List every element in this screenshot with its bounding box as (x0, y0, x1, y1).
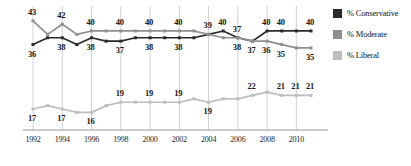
data-point-marker (134, 36, 137, 39)
data-value-label: 21 (277, 82, 285, 91)
legend-label: % Moderate (347, 30, 387, 39)
x-tick-label: 1996 (84, 136, 99, 144)
data-point-marker (192, 97, 195, 100)
data-value-label: 19 (204, 107, 212, 116)
data-point-marker (32, 43, 35, 46)
data-point-marker (266, 29, 269, 32)
data-value-label: 22 (247, 82, 255, 91)
data-value-label: 19 (116, 89, 124, 98)
data-point-marker (207, 101, 210, 104)
x-tick-label: 2006 (230, 136, 245, 144)
x-tick-label: 2010 (289, 136, 304, 144)
data-value-label: 40 (306, 18, 314, 27)
data-point-marker (149, 36, 152, 39)
data-value-label: 38 (145, 43, 153, 52)
data-point-marker (105, 40, 108, 43)
legend-swatch-icon (333, 51, 342, 60)
data-point-marker (32, 19, 35, 22)
data-point-marker (280, 94, 283, 97)
data-point-marker (119, 101, 122, 104)
x-tick-label: 2004 (201, 136, 216, 144)
data-value-label: 38 (174, 43, 182, 52)
data-value-label: 43 (28, 8, 36, 17)
data-point-marker (178, 101, 181, 104)
data-point-marker (134, 29, 137, 32)
data-point-marker (236, 36, 239, 39)
data-point-marker (134, 101, 137, 104)
data-point-marker (178, 36, 181, 39)
data-point-marker (61, 36, 64, 39)
data-point-marker (61, 23, 64, 26)
x-tick-label: 1998 (113, 136, 128, 144)
x-tick-label: 2000 (142, 136, 157, 144)
data-value-label: 40 (145, 18, 153, 27)
data-value-label: 39 (204, 21, 212, 30)
data-point-marker (75, 111, 78, 114)
data-point-marker (251, 40, 254, 43)
data-value-label: 35 (306, 53, 314, 62)
data-value-label: 40 (174, 18, 182, 27)
x-tick-label: 2002 (172, 136, 187, 144)
data-value-label: 38 (87, 43, 95, 52)
x-tick-label: 2008 (259, 136, 274, 144)
legend-item[interactable]: % Conservative (333, 8, 411, 18)
data-point-marker (222, 97, 225, 100)
data-value-label: 17 (57, 114, 65, 123)
plot-area: 3638383738383940384040404342404040403737… (0, 0, 330, 166)
data-point-marker (90, 29, 93, 32)
data-point-marker (163, 36, 166, 39)
data-value-label: 16 (87, 117, 95, 126)
data-point-marker (295, 29, 298, 32)
legend-swatch-icon (333, 30, 342, 39)
data-value-label: 21 (291, 82, 299, 91)
data-value-label: 40 (116, 18, 124, 27)
data-point-marker (207, 33, 210, 36)
legend-item[interactable]: % Moderate (333, 29, 411, 39)
data-value-label: 38 (233, 43, 241, 52)
data-point-marker (178, 29, 181, 32)
data-point-marker (46, 33, 49, 36)
data-point-marker (236, 97, 239, 100)
data-value-label: 36 (262, 46, 270, 55)
data-value-label: 37 (116, 46, 124, 55)
data-point-marker (266, 91, 269, 94)
legend-label: % Conservative (347, 9, 398, 18)
data-point-marker (119, 29, 122, 32)
data-point-marker (251, 94, 254, 97)
data-value-label: 42 (57, 11, 65, 20)
data-value-label: 37 (233, 25, 241, 34)
legend-item[interactable]: % Liberal (333, 50, 411, 60)
x-tick-label: 1992 (25, 136, 40, 144)
data-point-marker (105, 29, 108, 32)
ideology-trend-chart: 3638383738383940384040404342404040403737… (0, 0, 411, 166)
data-value-label: 17 (28, 114, 36, 123)
data-point-marker (149, 29, 152, 32)
data-point-marker (310, 46, 313, 49)
data-value-label: 21 (306, 82, 314, 91)
data-point-marker (61, 108, 64, 111)
data-value-label: 40 (218, 18, 226, 27)
data-value-label: 40 (277, 18, 285, 27)
data-point-marker (310, 94, 313, 97)
data-point-marker (310, 29, 313, 32)
data-point-marker (266, 40, 269, 43)
data-point-marker (32, 108, 35, 111)
data-point-marker (90, 111, 93, 114)
data-point-marker (119, 40, 122, 43)
data-value-label: 19 (145, 89, 153, 98)
data-value-label: 35 (277, 50, 285, 59)
data-point-marker (46, 104, 49, 107)
data-point-marker (222, 36, 225, 39)
data-point-marker (192, 29, 195, 32)
data-point-marker (90, 36, 93, 39)
data-value-label: 37 (247, 46, 255, 55)
data-value-label: 36 (28, 50, 36, 59)
x-tick-label: 1994 (55, 136, 70, 144)
data-point-marker (75, 33, 78, 36)
data-value-label: 38 (57, 43, 65, 52)
chart-legend: % Conservative% Moderate% Liberal (333, 8, 411, 71)
data-value-label: 19 (174, 89, 182, 98)
legend-swatch-icon (333, 9, 342, 18)
data-point-marker (149, 101, 152, 104)
data-point-marker (222, 29, 225, 32)
